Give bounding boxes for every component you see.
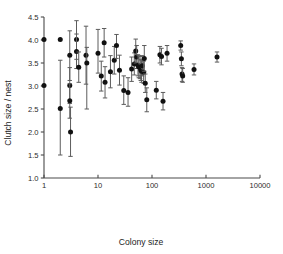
data-point bbox=[143, 81, 148, 86]
data-point bbox=[99, 73, 104, 78]
data-point bbox=[67, 53, 72, 58]
data-point bbox=[84, 61, 89, 66]
y-tick-label: 3.5 bbox=[28, 59, 39, 68]
x-tick-label: 1 bbox=[42, 181, 46, 190]
y-tick-label: 4.5 bbox=[28, 13, 39, 22]
data-point bbox=[161, 99, 166, 104]
x-axis-ticks: 110100100010000 bbox=[42, 175, 271, 190]
data-point bbox=[178, 43, 183, 48]
data-point bbox=[42, 83, 47, 88]
data-point bbox=[133, 49, 138, 54]
chart-figure: 1.01.52.02.53.03.54.04.5 110100100010000… bbox=[0, 0, 283, 254]
y-axis-title: Clutch size / nest bbox=[3, 80, 13, 146]
data-point bbox=[121, 88, 126, 93]
x-tick-label: 1000 bbox=[198, 181, 215, 190]
data-point bbox=[84, 53, 89, 58]
x-tick-label: 10000 bbox=[249, 181, 270, 190]
y-tick-label: 1.5 bbox=[28, 151, 39, 160]
data-point bbox=[42, 37, 47, 42]
data-point bbox=[126, 90, 131, 95]
data-point bbox=[180, 73, 185, 78]
x-tick-label: 10 bbox=[94, 181, 102, 190]
data-point bbox=[58, 37, 63, 42]
y-tick-label: 2.5 bbox=[28, 105, 39, 114]
data-point bbox=[142, 56, 147, 61]
data-points-layer bbox=[42, 21, 220, 157]
data-point bbox=[129, 66, 134, 71]
y-tick-label: 4.0 bbox=[28, 36, 39, 45]
x-axis-title: Colony size bbox=[119, 237, 164, 247]
y-axis-ticks: 1.01.52.02.53.03.54.04.5 bbox=[28, 13, 44, 183]
x-tick-label: 100 bbox=[146, 181, 159, 190]
data-point bbox=[102, 40, 107, 45]
data-point bbox=[103, 80, 108, 85]
data-point bbox=[117, 68, 122, 73]
data-point bbox=[76, 65, 81, 70]
data-point bbox=[67, 98, 72, 103]
data-point bbox=[96, 51, 101, 56]
y-tick-label: 3.0 bbox=[28, 82, 39, 91]
data-point bbox=[114, 43, 119, 48]
y-tick-label: 2.0 bbox=[28, 128, 39, 137]
data-point bbox=[68, 130, 73, 135]
scatter-plot: 1.01.52.02.53.03.54.04.5 110100100010000… bbox=[0, 0, 283, 254]
data-point bbox=[108, 69, 113, 74]
data-point bbox=[179, 56, 184, 61]
y-tick-label: 1.0 bbox=[28, 174, 39, 183]
data-point bbox=[144, 97, 149, 102]
data-point bbox=[215, 55, 220, 60]
data-point bbox=[159, 54, 164, 59]
data-point bbox=[154, 88, 159, 93]
data-point bbox=[58, 106, 63, 111]
data-point bbox=[192, 67, 197, 72]
data-point bbox=[165, 51, 170, 56]
